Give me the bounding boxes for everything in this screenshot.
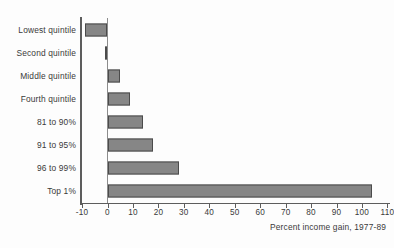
bar bbox=[108, 116, 144, 129]
category-label: Fourth quintile bbox=[21, 94, 76, 104]
bar bbox=[85, 23, 108, 36]
category-label: 91 to 95% bbox=[37, 140, 76, 150]
x-tick-label: 10 bbox=[128, 208, 138, 217]
category-label: Middle quintile bbox=[20, 71, 76, 81]
bar-row: Fourth quintile bbox=[0, 87, 394, 110]
bar-row: Middle quintile bbox=[0, 64, 394, 87]
bar-row: Second quintile bbox=[0, 41, 394, 64]
category-label: 81 to 90% bbox=[37, 117, 76, 127]
x-tick-label: 0 bbox=[105, 208, 110, 217]
bar bbox=[105, 46, 108, 59]
bar bbox=[108, 162, 179, 175]
x-tick-label: 110 bbox=[381, 208, 394, 217]
bar bbox=[108, 185, 373, 198]
bar-row: 81 to 90% bbox=[0, 111, 394, 134]
bar-rows-container: Lowest quintileSecond quintileMiddle qui… bbox=[0, 18, 394, 203]
bar-row: 91 to 95% bbox=[0, 134, 394, 157]
category-label: Second quintile bbox=[16, 48, 76, 58]
x-tick-label: 50 bbox=[230, 208, 240, 217]
category-label: Top 1% bbox=[47, 186, 76, 196]
x-tick-label: -10 bbox=[76, 208, 88, 217]
bar bbox=[108, 139, 154, 152]
x-tick-label: 40 bbox=[205, 208, 215, 217]
x-tick-label: 100 bbox=[355, 208, 369, 217]
bar bbox=[108, 92, 131, 105]
bar-chart-figure: Lowest quintileSecond quintileMiddle qui… bbox=[0, 0, 394, 248]
x-axis-tick-labels: -100102030405060708090100110 bbox=[0, 208, 394, 220]
category-label: 96 to 99% bbox=[37, 163, 76, 173]
bar-row: Top 1% bbox=[0, 180, 394, 203]
bar-row: Lowest quintile bbox=[0, 18, 394, 41]
x-tick-label: 20 bbox=[154, 208, 164, 217]
x-tick-label: 60 bbox=[255, 208, 265, 217]
category-label: Lowest quintile bbox=[18, 25, 76, 35]
x-tick-label: 70 bbox=[281, 208, 291, 217]
bar-row: 96 to 99% bbox=[0, 157, 394, 180]
x-axis-caption: Percent income gain, 1977-89 bbox=[0, 222, 386, 232]
x-tick-label: 90 bbox=[332, 208, 342, 217]
x-tick-label: 30 bbox=[179, 208, 189, 217]
bar bbox=[108, 69, 121, 82]
x-tick-label: 80 bbox=[306, 208, 316, 217]
